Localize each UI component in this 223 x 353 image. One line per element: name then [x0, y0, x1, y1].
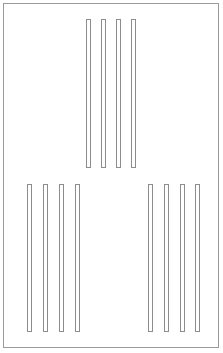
bottom-right-group-bar-2 — [164, 184, 169, 332]
bottom-right-group-bar-1 — [148, 184, 153, 332]
bottom-right-group-bar-3 — [180, 184, 185, 332]
diagram-canvas — [0, 0, 223, 353]
bottom-right-group-bar-4 — [195, 184, 200, 332]
bottom-right-group — [0, 0, 223, 353]
